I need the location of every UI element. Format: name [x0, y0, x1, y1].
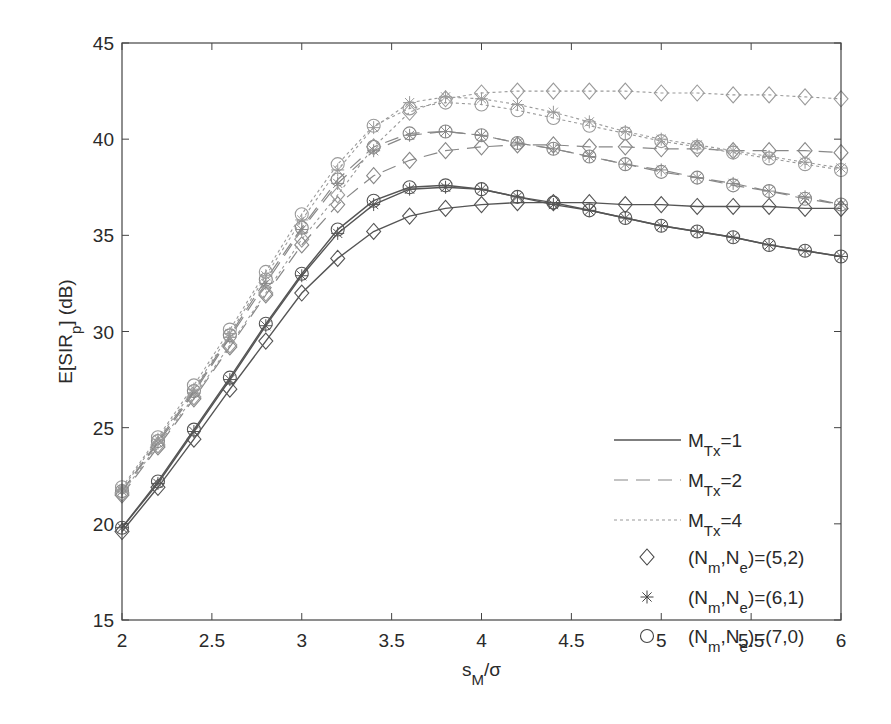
- legend-item: (Nm,Ne)=(6,1): [641, 587, 805, 616]
- star-marker: [403, 96, 416, 109]
- legend-item: MTx=1: [614, 430, 742, 459]
- x-tick-label: 4: [476, 630, 487, 651]
- x-tick-label: 2.5: [199, 630, 225, 651]
- x-tick-label: 6: [836, 630, 847, 651]
- legend-item: MTx=2: [614, 470, 742, 499]
- y-tick-label: 25: [93, 418, 114, 439]
- y-tick-label: 35: [93, 225, 114, 246]
- star-marker: [641, 591, 654, 604]
- legend: MTx=1MTx=2MTx=4(Nm,Ne)=(5,2)(Nm,Ne)=(6,1…: [614, 430, 804, 655]
- star-marker: [475, 92, 488, 105]
- legend-item: MTx=4: [614, 510, 743, 539]
- star-marker: [511, 98, 524, 111]
- y-tick-label: 45: [93, 33, 114, 54]
- y-tick-label: 20: [93, 514, 114, 535]
- star-marker: [331, 163, 344, 176]
- y-tick-label: 15: [93, 610, 114, 631]
- circle-marker: [641, 630, 654, 643]
- x-tick-label: 3: [296, 630, 307, 651]
- x-tick-label: 5: [656, 630, 667, 651]
- y-axis-label: E[SIRp] (dB): [55, 279, 84, 383]
- legend-label: MTx=4: [688, 510, 743, 539]
- legend-label: MTx=2: [688, 470, 742, 499]
- x-tick-label: 4.5: [558, 630, 584, 651]
- star-marker: [295, 213, 308, 226]
- legend-label: (Nm,Ne)=(5,2): [688, 547, 804, 576]
- chart: 22.533.544.555.5615202530354045 MTx=1MTx…: [0, 0, 891, 724]
- legend-label: (Nm,Ne)=(6,1): [688, 587, 804, 616]
- x-tick-label: 2: [117, 630, 128, 651]
- legend-label: MTx=1: [688, 430, 742, 459]
- star-marker: [547, 106, 560, 119]
- y-tick-label: 40: [93, 129, 114, 150]
- diamond-marker: [640, 549, 654, 565]
- x-axis-label: sM/σ: [462, 659, 501, 688]
- legend-item: (Nm,Ne)=(5,2): [640, 547, 804, 576]
- x-tick-label: 3.5: [378, 630, 404, 651]
- y-tick-label: 30: [93, 322, 114, 343]
- star-marker: [439, 90, 452, 103]
